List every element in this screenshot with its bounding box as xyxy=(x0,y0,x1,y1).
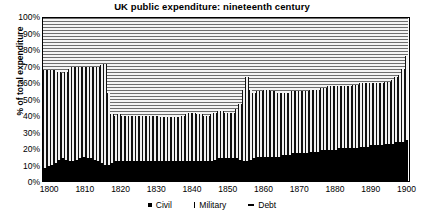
military-swatch-icon xyxy=(194,202,196,208)
x-tick-label: 1810 xyxy=(65,184,105,194)
plot-area xyxy=(42,17,410,182)
y-tick-label: 100% xyxy=(4,12,40,22)
x-tick-label: 1830 xyxy=(136,184,176,194)
x-tick-label: 1870 xyxy=(279,184,319,194)
y-tick-label: 80% xyxy=(4,45,40,55)
legend-item-military: Military xyxy=(194,200,226,210)
legend-item-civil: Civil xyxy=(148,200,172,210)
y-tick-label: 50% xyxy=(4,95,40,105)
chart-legend: Civil Military Debt xyxy=(0,200,424,210)
chart-title: UK public expenditure: nineteenth centur… xyxy=(0,1,424,12)
legend-label-debt: Debt xyxy=(258,200,276,210)
stacked-bars xyxy=(43,18,409,181)
x-tick-label: 1860 xyxy=(244,184,284,194)
x-tick-label: 1900 xyxy=(386,184,424,194)
y-tick-label: 60% xyxy=(4,78,40,88)
x-tick-label: 1880 xyxy=(315,184,355,194)
table-row xyxy=(405,18,409,181)
x-tick-label: 1890 xyxy=(351,184,391,194)
y-tick-label: 90% xyxy=(4,29,40,39)
y-tick-label: 30% xyxy=(4,128,40,138)
legend-item-debt: Debt xyxy=(248,200,276,210)
bar-segment-military xyxy=(405,56,409,141)
x-tick-label: 1820 xyxy=(101,184,141,194)
y-tick-label: 70% xyxy=(4,62,40,72)
y-tick-label: 10% xyxy=(4,161,40,171)
x-tick-label: 1840 xyxy=(172,184,212,194)
civil-swatch-icon xyxy=(148,203,152,207)
debt-swatch-icon xyxy=(248,204,254,206)
x-tick-label: 1800 xyxy=(29,184,69,194)
x-tick-label: 1850 xyxy=(208,184,248,194)
bar-segment-debt xyxy=(405,18,409,55)
legend-label-military: Military xyxy=(199,200,226,210)
bar-segment-civil xyxy=(405,140,409,181)
chart-container: UK public expenditure: nineteenth centur… xyxy=(0,0,424,223)
y-tick-label: 40% xyxy=(4,111,40,121)
y-tick-label: 20% xyxy=(4,144,40,154)
legend-label-civil: Civil xyxy=(156,200,172,210)
